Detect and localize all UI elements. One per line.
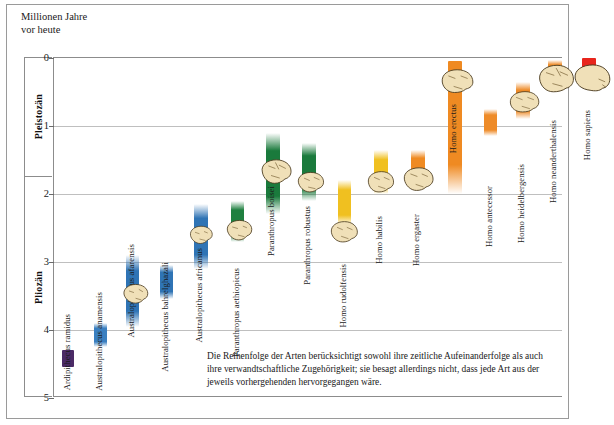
species-column: Australopithecus afarensis (126, 58, 139, 396)
epoch-band-pleistozn: Pleistozän (25, 58, 52, 177)
species-label: Homo antecessor (485, 186, 494, 247)
skull-icon-robustus (294, 170, 332, 196)
species-column: Ardipithecus ramidus (62, 58, 74, 396)
species-column: Paranthropus boisei (266, 58, 280, 396)
species-label: Homo heidelbergensis (517, 164, 526, 243)
species-label: Paranthropus robustus (303, 206, 312, 285)
species-label: Australopithecus africanus (195, 248, 204, 342)
species-column: Homo erectus (448, 58, 462, 396)
skull-icon-boisei (258, 158, 298, 186)
epoch-band-pliozn: Pliozän (25, 177, 52, 398)
skull-icon-ergaster (400, 166, 440, 194)
species-label: Ardipithecus ramidus (63, 314, 72, 390)
epoch-label: Pliozän (33, 271, 44, 304)
y-axis-tick-mark (49, 126, 54, 127)
y-axis-tick-mark (49, 262, 54, 263)
species-column: Homo antecessor (484, 58, 497, 396)
epoch-label: Pleistozän (33, 94, 44, 139)
species-column: Homo sapiens (582, 58, 596, 396)
species-column: Australopithecus bahrelghazali (160, 58, 173, 396)
skull-icon-africanus (186, 224, 222, 248)
species-label: Homo neanderthalensis (549, 120, 558, 203)
species-label: Australopithecus bahrelghazali (161, 262, 170, 372)
plot-area: 012345Ardipithecus ramidusAustralopithec… (53, 57, 562, 397)
axis-caption: Millionen Jahre vor heute (21, 11, 87, 36)
species-column: Homo neanderthalensis (548, 58, 562, 396)
skull-icon-rudolfensis (326, 220, 366, 246)
species-label: Australopithecus anamensis (95, 292, 104, 391)
species-column: Paranthropus robustus (302, 58, 316, 396)
species-label: Paranthropus aethiopicus (232, 268, 241, 357)
species-label: Homo habilis (375, 216, 384, 264)
y-axis-tick-mark (49, 330, 54, 331)
y-axis-tick-mark (49, 58, 54, 59)
skull-icon-aethiopicus (223, 218, 261, 244)
species-column: Australopithecus anamensis (94, 58, 107, 396)
species-column: Homo ergaster (411, 58, 425, 396)
species-label: Homo erectus (449, 104, 458, 153)
skull-icon-afarensis (118, 282, 158, 308)
y-axis-tick-mark (49, 194, 54, 195)
skull-icon-sapiens (570, 64, 614, 94)
skull-icon-erectus (437, 68, 479, 96)
species-label: Homo sapiens (583, 110, 592, 160)
species-label: Homo rudolfensis (339, 264, 348, 327)
epoch-column: PleistozänPliozän (24, 57, 52, 397)
skull-icon-habilis (364, 170, 402, 196)
figure-frame: Millionen Jahre vor heute PleistozänPlio… (6, 4, 569, 419)
figure-footnote: Die Reihenfolge der Arten berücksichtigt… (207, 350, 559, 390)
species-label: Paranthropus boisei (267, 186, 276, 256)
species-column: Homo habilis (374, 58, 388, 396)
species-range-bar[interactable] (484, 109, 497, 136)
species-label: Homo ergaster (412, 214, 421, 266)
species-range-bar[interactable] (338, 180, 351, 224)
y-axis-tick-mark (49, 398, 54, 399)
